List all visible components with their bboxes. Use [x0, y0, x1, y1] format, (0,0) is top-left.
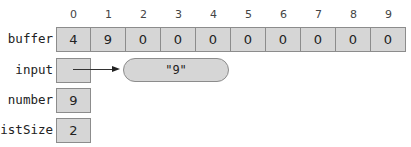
index-label: 0 — [56, 8, 91, 21]
index-label: 2 — [126, 8, 161, 21]
number-cell: 9 — [56, 88, 91, 113]
index-label: 7 — [301, 8, 336, 21]
string-object: "9" — [123, 58, 229, 82]
index-label: 1 — [91, 8, 126, 21]
number-label: number — [8, 92, 53, 107]
buffer-cell: 0 — [336, 27, 371, 52]
buffer-cell: 0 — [301, 27, 336, 52]
index-label: 3 — [161, 8, 196, 21]
index-label: 8 — [336, 8, 371, 21]
index-label: 4 — [196, 8, 231, 21]
arrowhead-icon — [112, 66, 120, 72]
index-label: 9 — [371, 8, 406, 21]
index-label: 6 — [266, 8, 301, 21]
listsize-cell: 2 — [56, 118, 91, 143]
buffer-cell: 0 — [161, 27, 196, 52]
buffer-cell: 0 — [196, 27, 231, 52]
index-label: 5 — [231, 8, 266, 21]
buffer-cell: 0 — [266, 27, 301, 52]
input-label: input — [15, 62, 53, 77]
buffer-label: buffer — [8, 31, 53, 46]
buffer-cell: 0 — [126, 27, 161, 52]
buffer-cell: 9 — [91, 27, 126, 52]
buffer-cell: 0 — [231, 27, 266, 52]
buffer-cell: 0 — [371, 27, 406, 52]
input-cell — [56, 58, 91, 83]
listsize-label: listSize — [0, 122, 53, 137]
reference-arrow — [73, 69, 115, 70]
buffer-cell: 4 — [56, 27, 91, 52]
